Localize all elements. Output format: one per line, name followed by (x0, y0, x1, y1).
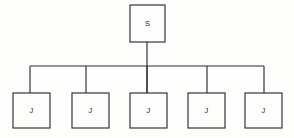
child-node-2[interactable]: J (72, 93, 109, 128)
child-node-3-label: J (147, 106, 151, 115)
child-node-1[interactable]: J (13, 93, 50, 128)
tree-diagram-canvas: S J J J J J (0, 0, 294, 138)
root-node[interactable]: S (130, 5, 165, 42)
child-node-1-label: J (30, 106, 34, 115)
child-node-5[interactable]: J (245, 93, 282, 128)
child-node-4-label: J (205, 106, 209, 115)
tree-diagram-svg: S J J J J J (0, 0, 294, 138)
child-node-5-label: J (262, 106, 266, 115)
child-node-4[interactable]: J (188, 93, 225, 128)
connector-group (30, 42, 264, 93)
root-node-label: S (145, 19, 150, 28)
child-node-2-label: J (89, 106, 93, 115)
child-node-3[interactable]: J (130, 93, 167, 128)
